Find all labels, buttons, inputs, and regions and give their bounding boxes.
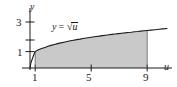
x-axis-label: u [164,62,169,72]
y-axis-label: y [30,2,34,12]
x-tick-label-5: 5 [86,72,92,83]
figure-container: 3 1 1 5 9 y u y=√u [0,0,177,87]
radical-overbar [71,22,78,23]
y-tick-label-1: 1 [17,47,23,58]
x-tick-label-1: 1 [32,72,38,83]
x-tick-label-9: 9 [143,72,149,83]
shaded-area-under-curve [35,31,147,69]
curve-equation-radical-group: √u [66,22,78,32]
curve-equation-equals: = [56,21,66,32]
curve-equation-label: y=√u [52,22,78,32]
y-tick-label-3: 3 [16,17,22,28]
